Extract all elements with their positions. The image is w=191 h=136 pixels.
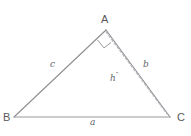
vertex-label-b: B: [3, 112, 10, 123]
vertex-label-c: C: [177, 112, 185, 123]
altitude-label: h″: [110, 72, 118, 83]
vertex-label-a: A: [101, 14, 108, 25]
side-label-a: a: [90, 118, 95, 127]
side-c-line: [14, 30, 106, 117]
altitude-label-prime: ″: [116, 71, 118, 79]
side-label-c: c: [50, 60, 55, 69]
side-label-b: b: [143, 60, 149, 69]
right-angle-marker-icon: [98, 40, 111, 48]
triangle-diagram: [0, 0, 191, 136]
geometry-figure: A B C a b c h″: [0, 0, 191, 136]
